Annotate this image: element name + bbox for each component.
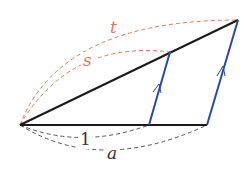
label-a: a [107, 143, 117, 163]
label-s: s [83, 50, 92, 70]
parallel-line-outer [207, 20, 238, 125]
arrow-icon [153, 84, 161, 93]
label-one: 1 [80, 129, 91, 149]
parallel-lines-ratio-diagram: t s 1 a [0, 0, 244, 171]
diagonal-line [20, 20, 238, 125]
label-t: t [110, 17, 117, 37]
